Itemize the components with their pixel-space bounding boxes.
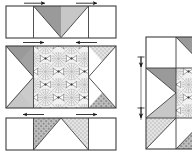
patch-corner-square-right: [89, 6, 117, 38]
quilt-assembly-svg: [0, 0, 192, 157]
patch-corner-square-right-bottom: [89, 118, 117, 150]
diagram-canvas: [0, 0, 192, 157]
row-top[interactable]: [6, 6, 116, 38]
assembled-center-floral: [176, 68, 192, 118]
patch-center-square-floral: [34, 46, 89, 108]
row-bottom[interactable]: [6, 118, 116, 150]
assembled-top-left-square: [146, 37, 176, 68]
patch-corner-square-left-bottom: [6, 118, 34, 150]
row-middle[interactable]: [6, 46, 116, 108]
patch-corner-square-left: [6, 6, 34, 38]
assembled-block[interactable]: [146, 37, 192, 149]
